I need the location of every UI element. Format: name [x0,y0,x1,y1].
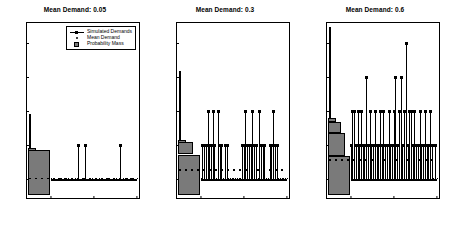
mean-demand-dot [275,169,277,171]
simulated-demand-stem [99,178,100,179]
mean-demand-dot [239,169,241,171]
simulated-demand-marker [429,110,432,113]
mean-demand-dot [263,169,265,171]
simulated-demand-stem [61,178,62,179]
simulated-demand-stem [437,178,438,179]
simulated-demand-stem [51,178,52,179]
legend-label: Probability Mass [87,40,124,48]
mean-demand-dot [227,169,229,171]
probability-mass-bar [328,118,336,122]
stem-baseline [201,179,287,181]
simulated-demand-marker [374,110,377,113]
simulated-demand-marker [217,110,220,113]
x-axis-tick-mark [201,196,202,199]
mean-demand-dot [71,178,73,180]
simulated-demand-marker [207,110,210,113]
simulated-demand-stem [116,178,117,179]
simulated-demand-stem [78,145,79,179]
probability-mass-bar [178,142,193,154]
simulated-demand-marker [382,110,385,113]
simulated-demand-stem [133,178,134,179]
mean-demand-dot [341,159,343,161]
simulated-demand-stem [123,178,124,179]
mean-demand-dot [191,169,193,171]
simulated-demand-stem [127,178,128,179]
mean-demand-dot [245,169,247,171]
simulated-demand-stem [287,178,288,179]
mean-demand-dot [29,178,31,180]
mean-demand-dot [221,169,223,171]
mean-demand-dot [53,178,55,180]
mean-demand-dot [425,159,427,161]
panel-mean-demand-0-05: Mean Demand: 0.05 Simulated Demands Mean… [0,0,150,233]
simulated-demand-stem [85,145,86,179]
mean-demand-dot [413,159,415,161]
simulated-demand-stem [109,178,110,179]
probability-mass-bar [178,155,200,195]
panel-title: Mean Demand: 0.05 [0,6,150,13]
mean-demand-dot [329,159,331,161]
mean-demand-dot [77,178,79,180]
x-axis-tick-mark [94,196,95,199]
x-axis-tick-mark [394,196,395,199]
mean-demand-dot [41,178,43,180]
mean-demand-dot [353,159,355,161]
mean-demand-dot [359,159,361,161]
simulated-demand-marker [272,110,275,113]
mean-demand-dot [371,159,373,161]
simulated-demand-marker [434,144,437,147]
panel-mean-demand-0-6: Mean Demand: 0.6 012340100200 [300,0,450,233]
simulated-demand-marker [84,144,87,147]
simulated-demand-stem [432,145,433,179]
mean-demand-dot [95,178,97,180]
probability-mass-bar [28,148,36,151]
simulated-demand-marker [388,110,391,113]
x-axis-tick-mark [287,196,288,199]
simulated-demand-marker [360,110,363,113]
y-axis-tick-mark [26,111,29,112]
legend-item-probability-mass: Probability Mass [70,41,132,47]
probability-mass-bar [178,140,186,143]
mean-demand-dot [365,159,367,161]
probability-mass-tail-needle [29,114,31,148]
mean-demand-dot [233,169,235,171]
mean-demand-dot [83,178,85,180]
simulated-demand-marker [258,110,261,113]
y-axis-tick-mark [26,43,29,44]
simulated-demand-marker [394,76,397,79]
mean-demand-dot [113,178,115,180]
simulated-demand-marker [263,144,266,147]
simulated-demand-marker [251,110,254,113]
simulated-demand-stem [92,178,93,179]
legend: Simulated Demands Mean Demand Probabilit… [66,26,136,50]
probability-mass-bar [328,133,345,156]
simulated-demand-marker [400,76,403,79]
simulated-demand-marker [77,144,80,147]
simulated-demand-stem [214,145,215,179]
mean-demand-dot [107,178,109,180]
simulated-demand-stem [277,145,278,179]
mean-demand-dot [179,169,181,171]
simulated-demand-stem [227,145,228,179]
simulated-demand-marker [276,144,279,147]
y-axis-tick-mark [176,43,179,44]
simulated-demand-stem [75,178,76,179]
simulated-demand-marker [365,76,368,79]
simulated-demand-marker [119,144,122,147]
mean-demand-dot [119,178,121,180]
panel-title: Mean Demand: 0.3 [150,6,300,13]
simulated-demand-marker [413,110,416,113]
mean-demand-dot [197,169,199,171]
simulated-demand-marker [369,110,372,113]
plot-area: 012340100200 [176,22,290,199]
x-axis-tick-mark [351,196,352,199]
mean-demand-dot [335,159,337,161]
plot-area: Simulated Demands Mean Demand Probabilit… [26,22,140,199]
mean-demand-dot [125,178,127,180]
simulated-demand-marker [213,144,216,147]
mean-demand-dot [401,159,403,161]
mean-demand-dot [383,159,385,161]
x-axis-tick-mark [437,196,438,199]
mean-demand-dot [269,169,271,171]
probability-mass-bar [28,150,50,194]
